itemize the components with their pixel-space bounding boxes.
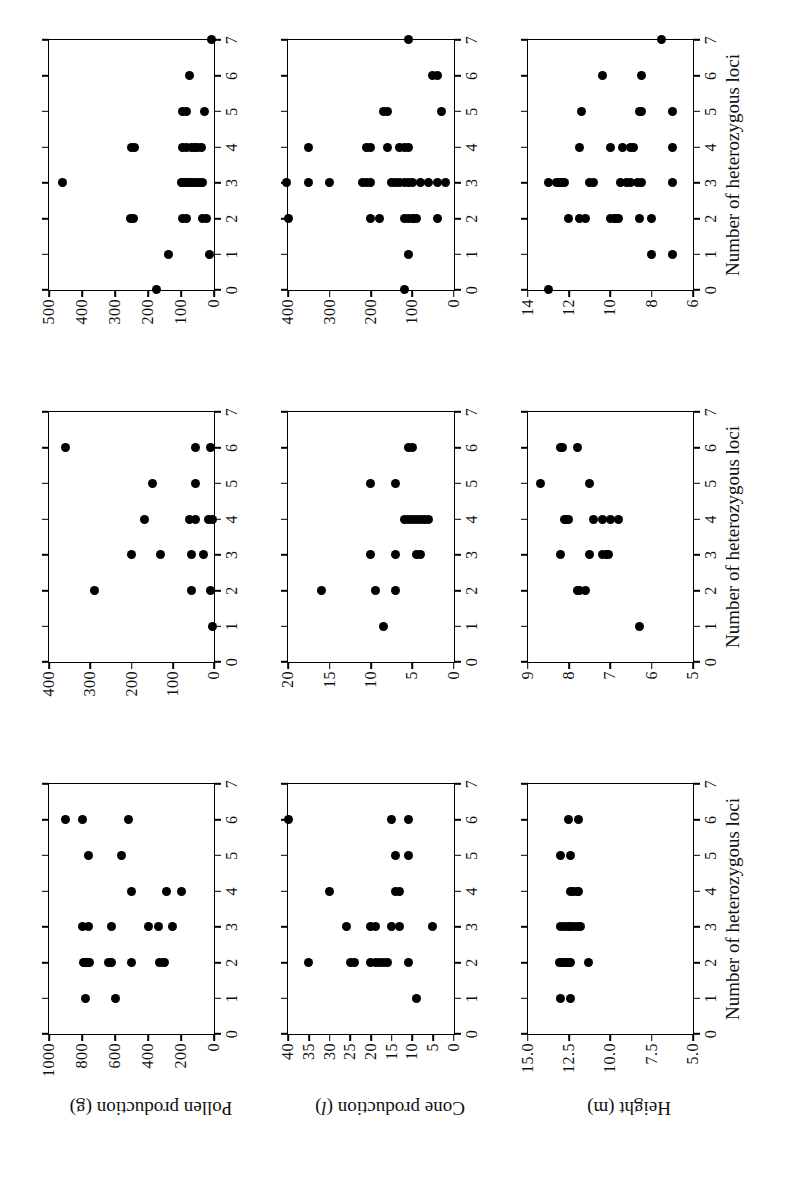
x-tick-label: 6: [214, 443, 241, 452]
y-tick-label: 5: [403, 662, 421, 680]
x-tick-mark: [281, 998, 288, 1000]
x-tick-label: 1: [693, 994, 720, 1003]
data-point: [78, 815, 87, 824]
data-point: [199, 550, 208, 559]
data-point: [162, 887, 171, 896]
data-point: [117, 851, 126, 860]
data-point: [168, 922, 177, 931]
data-point: [564, 815, 573, 824]
data-point: [566, 958, 575, 967]
x-tick-label: 4: [454, 887, 481, 896]
x-tick-label: 4: [214, 515, 241, 524]
y-axis-title: Pollen production (g): [69, 1097, 232, 1119]
x-tick-mark: [521, 819, 528, 821]
x-tick-mark: [42, 554, 49, 556]
y-tick-label: 100: [172, 290, 190, 325]
data-point-layer: [49, 784, 214, 1034]
data-point-layer: [49, 412, 214, 662]
x-tick-label: 4: [214, 143, 241, 152]
data-point: [206, 443, 215, 452]
data-point: [441, 178, 450, 187]
x-axis-title: Number of heterozygous loci: [722, 39, 744, 291]
data-point: [383, 107, 392, 116]
data-point: [391, 851, 400, 860]
data-point: [647, 250, 656, 259]
x-tick-mark: [521, 626, 528, 628]
y-tick-label: 30: [321, 1034, 339, 1060]
x-tick-mark: [42, 518, 49, 520]
data-point: [90, 586, 99, 595]
x-tick-label: 0: [693, 658, 720, 667]
x-tick-label: 5: [454, 107, 481, 116]
data-point: [404, 250, 413, 259]
x-tick-mark: [42, 626, 49, 628]
plot-area: 0200400600800100001234567: [48, 783, 215, 1035]
x-tick-label: 3: [454, 923, 481, 932]
y-tick-label: 15: [383, 1034, 401, 1060]
x-tick-mark: [281, 39, 288, 41]
x-tick-mark: [521, 111, 528, 113]
x-tick-mark: [521, 998, 528, 1000]
data-point: [404, 36, 413, 45]
x-tick-label: 5: [693, 851, 720, 860]
data-point: [556, 550, 565, 559]
data-point: [197, 143, 206, 152]
y-tick-label: 400: [139, 1034, 157, 1069]
x-tick-label: 7: [214, 36, 241, 45]
panel-grid: 0200400600800100001234567Pollen producti…: [40, 33, 740, 1093]
x-tick-label: 1: [214, 250, 241, 259]
data-point: [127, 958, 136, 967]
y-tick-label: 600: [106, 1034, 124, 1069]
plot-area: 010020030040001234567: [287, 39, 454, 291]
data-point: [604, 550, 613, 559]
x-tick-mark: [42, 182, 49, 184]
data-point: [564, 515, 573, 524]
x-tick-mark: [281, 926, 288, 928]
data-point: [152, 286, 161, 295]
data-point: [371, 586, 380, 595]
data-point: [428, 922, 437, 931]
plot-area: 010020030040001234567: [48, 411, 215, 663]
x-tick-mark: [521, 39, 528, 41]
data-point: [208, 622, 217, 631]
data-point: [160, 958, 169, 967]
y-tick-label: 10: [362, 662, 380, 688]
panel-r0-c1: 010020030040001234567: [40, 405, 261, 721]
x-tick-mark: [521, 254, 528, 256]
plot-area: 0510152001234567: [287, 411, 454, 663]
x-tick-label: 0: [693, 1030, 720, 1039]
data-point: [140, 515, 149, 524]
x-tick-label: 3: [214, 179, 241, 188]
data-point: [366, 550, 375, 559]
x-tick-mark: [281, 146, 288, 148]
data-point: [556, 994, 565, 1003]
data-point: [208, 515, 217, 524]
data-point: [647, 214, 656, 223]
y-tick-label: 7: [601, 662, 619, 680]
data-point: [182, 214, 191, 223]
data-point: [637, 107, 646, 116]
data-point: [127, 887, 136, 896]
data-point-layer: [288, 40, 453, 290]
data-point: [304, 958, 313, 967]
data-point: [433, 71, 442, 80]
x-tick-mark: [42, 661, 49, 663]
x-tick-mark: [281, 483, 288, 485]
data-point: [412, 214, 421, 223]
data-point-layer: [288, 784, 453, 1034]
x-axis-title: Number of heterozygous loci: [722, 783, 744, 1035]
data-point: [191, 479, 200, 488]
x-tick-mark: [281, 411, 288, 413]
x-tick-label: 1: [454, 250, 481, 259]
x-tick-mark: [281, 447, 288, 449]
data-point: [61, 815, 70, 824]
x-tick-label: 5: [454, 851, 481, 860]
y-tick-label: 25: [341, 1034, 359, 1060]
x-tick-label: 5: [454, 479, 481, 488]
figure-page: 0200400600800100001234567Pollen producti…: [0, 0, 809, 1189]
data-point-layer: [49, 40, 214, 290]
x-tick-label: 5: [214, 107, 241, 116]
plot-area: 6810121401234567: [527, 39, 694, 291]
x-tick-label: 2: [693, 586, 720, 595]
x-tick-label: 4: [214, 887, 241, 896]
